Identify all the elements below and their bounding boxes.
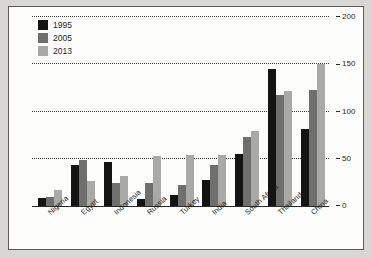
y-tick-value: 200 (342, 12, 355, 21)
bar (243, 137, 251, 206)
bar (38, 198, 46, 207)
y-tick-label: 150 (336, 60, 355, 68)
legend-swatch (38, 46, 48, 56)
x-axis-labels: NigeriaEgyptIndonesiaRussiaTurkeyIndiaSo… (32, 208, 329, 254)
tick-mark (336, 111, 340, 112)
bar-group (235, 131, 259, 206)
tick-mark (336, 158, 340, 159)
chart-legend: 199520052013 (38, 20, 72, 56)
y-tick-value: 150 (342, 59, 355, 68)
legend-swatch (38, 33, 48, 43)
tick-mark (336, 64, 340, 65)
legend-label: 1995 (53, 21, 72, 30)
legend-item: 2013 (38, 46, 72, 56)
bar (170, 195, 178, 206)
legend-swatch (38, 20, 48, 30)
y-tick-label: 0 (336, 202, 346, 210)
bar (71, 165, 79, 206)
legend-label: 2013 (53, 47, 72, 56)
bar-groups (32, 17, 329, 206)
bar (202, 180, 210, 206)
legend-label: 2005 (53, 34, 72, 43)
plot-area (32, 17, 329, 207)
bar (79, 160, 87, 206)
chart-border: 050100150200 NigeriaEgyptIndonesiaRussia… (8, 6, 364, 250)
y-tick-label: 50 (336, 155, 351, 163)
y-tick-value: 50 (342, 154, 351, 163)
y-tick-label: 200 (336, 13, 355, 21)
bar (309, 90, 317, 206)
bar (317, 64, 325, 206)
legend-item: 1995 (38, 20, 72, 30)
y-tick-value: 0 (342, 201, 346, 210)
bar (137, 199, 145, 206)
bar (235, 154, 243, 206)
bar (284, 91, 292, 206)
y-tick-label: 100 (336, 108, 355, 116)
legend-item: 2005 (38, 33, 72, 43)
tick-mark (336, 205, 340, 206)
chart-figure: 050100150200 NigeriaEgyptIndonesiaRussia… (0, 0, 372, 258)
bar (210, 165, 218, 206)
tick-mark (336, 16, 340, 17)
bar (104, 162, 112, 206)
y-tick-value: 100 (342, 107, 355, 116)
bar-group (301, 64, 325, 206)
